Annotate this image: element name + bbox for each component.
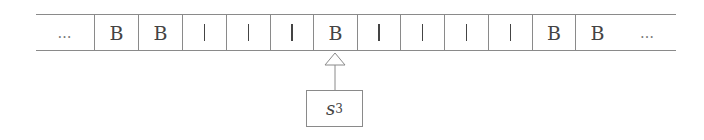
state-box: s3 <box>306 90 363 127</box>
state-label: s <box>326 98 335 119</box>
state-subscript: 3 <box>335 102 343 116</box>
